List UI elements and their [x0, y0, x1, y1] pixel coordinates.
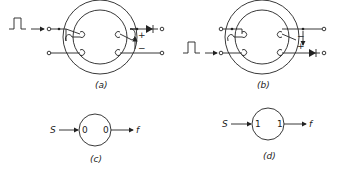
panel-b-label: (b): [257, 80, 270, 90]
svg-text:f: f: [309, 119, 314, 129]
svg-text:S: S: [222, 119, 228, 129]
diode-icon: [146, 25, 153, 33]
svg-text:(c): (c): [90, 154, 102, 164]
svg-text:+: +: [138, 30, 146, 40]
panel-c: S 0 0 f (c): [50, 114, 141, 164]
svg-text:S: S: [50, 125, 56, 135]
panel-a-label: (a): [95, 80, 108, 90]
svg-text:1: 1: [277, 119, 283, 129]
svg-text:(d): (d): [263, 151, 276, 161]
core-diagram: + − (a) − + (b) S 0: [0, 0, 346, 170]
svg-text:0: 0: [82, 125, 88, 135]
svg-text:+: +: [297, 41, 305, 51]
pulse-icon: [9, 18, 26, 29]
pulse-icon: [183, 42, 200, 53]
svg-text:−: −: [138, 43, 146, 53]
svg-text:f: f: [136, 125, 141, 135]
terminal: [47, 27, 51, 31]
svg-text:1: 1: [255, 119, 261, 129]
panel-b: − + (b): [183, 0, 326, 90]
svg-text:0: 0: [103, 125, 109, 135]
panel-a: + − (a): [9, 0, 164, 90]
diode-icon: [309, 49, 316, 57]
panel-d: S 1 1 f (d): [222, 108, 314, 161]
svg-text:−: −: [297, 31, 305, 41]
